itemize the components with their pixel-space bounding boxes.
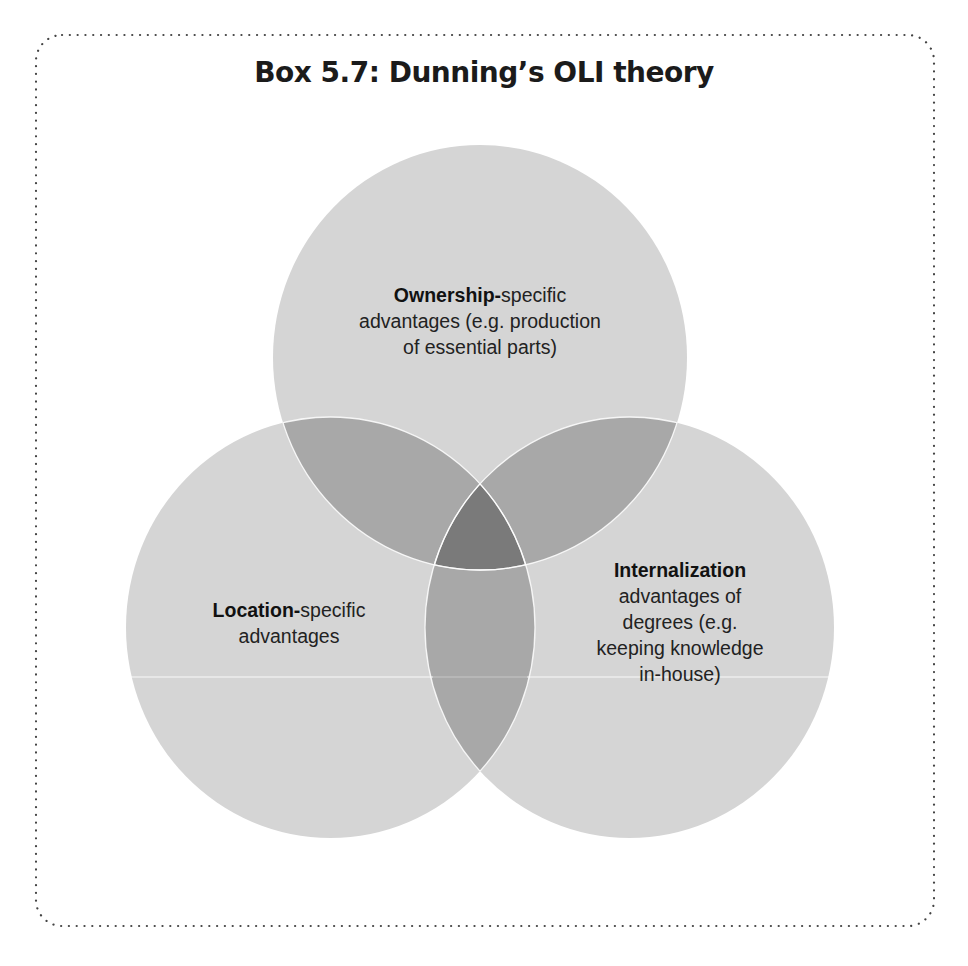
ownership-label-line-3: of essential parts) (359, 334, 601, 360)
ownership-label-line-2: advantages (e.g. production (359, 308, 601, 334)
internalization-label-line-3: keeping knowledge (597, 635, 764, 661)
internalization-label-line-1: advantages of (597, 583, 764, 609)
internalization-label-line-2: degrees (e.g. (597, 609, 764, 635)
ownership-label: Ownership-specific advantages (e.g. prod… (359, 282, 601, 360)
location-label-line-2: advantages (213, 623, 366, 649)
internalization-label: Internalization advantages of degrees (e… (597, 557, 764, 687)
oli-venn-diagram (0, 0, 968, 966)
ownership-label-line-1: specific (501, 284, 566, 306)
box-title: Box 5.7: Dunning’s OLI theory (0, 56, 968, 89)
internalization-label-line-4: in-house) (597, 661, 764, 687)
location-label-line-1: specific (300, 599, 365, 621)
ownership-label-bold: Ownership- (394, 284, 501, 306)
location-label-bold: Location- (213, 599, 301, 621)
location-label: Location-specific advantages (213, 597, 366, 649)
internalization-label-bold: Internalization (614, 559, 746, 581)
